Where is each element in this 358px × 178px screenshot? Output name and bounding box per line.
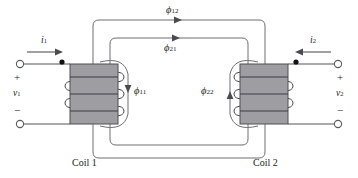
flux11-label: ϕ11 <box>134 86 146 97</box>
coil2-core-block <box>240 64 288 124</box>
coil2-plus-sign: + <box>337 72 343 83</box>
coil1-polarity-dot <box>59 59 64 64</box>
figure-canvas <box>0 0 358 178</box>
current-arrow-i2 <box>295 49 331 56</box>
coil2-caption: Coil 2 <box>253 158 278 168</box>
flux-loop-inner-phi21 <box>110 38 248 145</box>
voltage-v2-label: v2 <box>336 89 343 99</box>
current-i1-label: i1 <box>41 36 47 46</box>
coil2-minus-sign: − <box>337 105 343 116</box>
coil1-terminal-leads <box>16 60 70 127</box>
coil1-core-block <box>70 64 118 124</box>
flux22-label: ϕ22 <box>201 86 213 97</box>
coil1-caption: Coil 1 <box>72 158 97 168</box>
flux11-direction-arrow <box>125 85 132 93</box>
flux12-label: ϕ12 <box>166 5 178 16</box>
flux12-direction-arrow <box>174 17 182 24</box>
coil1-minus-sign: − <box>14 105 20 116</box>
coil2-polarity-dot <box>293 59 298 64</box>
flux22-direction-arrow <box>227 91 234 99</box>
current-i2-label: i2 <box>310 36 316 46</box>
coupled-coils-figure: ϕ12 ϕ21 ϕ11 ϕ22 i1 i2 + v1 − + v2 − Coil… <box>0 0 358 178</box>
flux21-label: ϕ21 <box>164 43 176 54</box>
flux21-direction-arrow <box>172 35 180 42</box>
coil1-plus-sign: + <box>14 72 20 83</box>
current-arrow-i1 <box>27 49 63 56</box>
voltage-v1-label: v1 <box>13 89 20 99</box>
coil2-terminal-leads <box>288 60 342 127</box>
